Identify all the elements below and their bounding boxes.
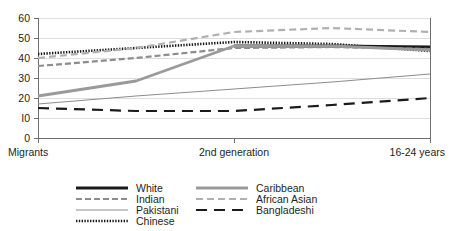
series-line-pakistani	[38, 74, 430, 104]
chart-container: 60 50 40 30 20 I0 0 Migrants 2nd generat…	[0, 0, 453, 231]
x-tick-label-16-24-years: 16-24 years	[390, 146, 445, 158]
line-chart: 60 50 40 30 20 I0 0 Migrants 2nd generat…	[0, 0, 453, 231]
y-tick-label-40: 40	[18, 52, 30, 64]
x-tick-label-migrants: Migrants	[8, 146, 48, 158]
y-tick-label-50: 50	[18, 32, 30, 44]
series-layer	[38, 28, 430, 111]
legend-column-one: White Indian Pakistani Chinese	[76, 182, 179, 227]
axes	[34, 18, 430, 143]
legend: White Indian Pakistani Chinese	[76, 182, 317, 227]
legend-label-chinese: Chinese	[136, 215, 175, 227]
series-line-bangladeshi	[38, 98, 430, 111]
x-axis-labels: Migrants 2nd generation 16-24 years	[8, 146, 445, 158]
y-tick-label-20: 20	[18, 92, 30, 104]
y-tick-label-10: I0	[21, 112, 30, 124]
y-axis-labels: 60 50 40 30 20 I0 0	[18, 12, 30, 144]
legend-item-chinese[interactable]: Chinese	[76, 215, 175, 227]
y-tick-label-0: 0	[24, 132, 30, 144]
y-tick-label-60: 60	[18, 12, 30, 24]
x-tick-label-2nd-generation: 2nd generation	[199, 146, 269, 158]
legend-column-two: Caribbean African Asian Bangladeshi	[196, 182, 317, 216]
y-tick-label-30: 30	[18, 72, 30, 84]
legend-item-bangladeshi[interactable]: Bangladeshi	[196, 204, 314, 216]
legend-label-bangladeshi: Bangladeshi	[256, 204, 314, 216]
